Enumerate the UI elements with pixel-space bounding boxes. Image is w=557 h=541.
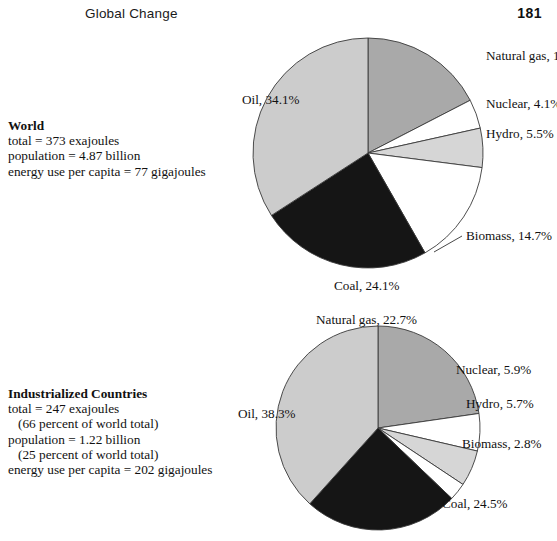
caption-line: population = 4.87 billion [8, 148, 206, 163]
pie-slice-natural-gas [378, 326, 479, 428]
caption-line: (66 percent of world total) [8, 416, 212, 431]
pie-label-natural-gas: Natural gas, 17.4% [486, 48, 557, 63]
caption-industrialized-lines: total = 247 exajoules(66 percent of worl… [8, 401, 212, 477]
caption-world-lines: total = 373 exajoulespopulation = 4.87 b… [8, 133, 206, 179]
page-number: 181 [517, 5, 542, 21]
caption-industrialized: Industrialized Countries total = 247 exa… [8, 386, 212, 477]
pie-label-oil: Oil, 38.3% [238, 406, 296, 421]
pie-chart-world-svg: Natural gas, 17.4%Nuclear, 4.1%Hydro, 5.… [238, 28, 557, 296]
caption-line: total = 247 exajoules [8, 401, 212, 416]
caption-line: (25 percent of world total) [8, 447, 212, 462]
caption-industrialized-title: Industrialized Countries [8, 386, 212, 401]
caption-line: total = 373 exajoules [8, 133, 206, 148]
pie-label-oil: Oil, 34.1% [242, 92, 300, 107]
caption-world: World total = 373 exajoulespopulation = … [8, 118, 206, 179]
caption-line: energy use per capita = 202 gigajoules [8, 462, 212, 477]
pie-chart-world: Natural gas, 17.4%Nuclear, 4.1%Hydro, 5.… [238, 28, 557, 296]
pie-label-nuclear: Nuclear, 5.9% [456, 362, 531, 377]
caption-line: population = 1.22 billion [8, 432, 212, 447]
pie-label-hydro: Hydro, 5.5% [486, 126, 554, 141]
pie-label-natural-gas: Natural gas, 22.7% [316, 312, 417, 327]
pie-label-biomass: Biomass, 2.8% [462, 436, 542, 451]
running-head: Global Change [85, 6, 178, 21]
caption-line: energy use per capita = 77 gigajoules [8, 164, 206, 179]
pie-label-nuclear: Nuclear, 4.1% [486, 96, 557, 111]
pie-chart-industrialized: Natural gas, 22.7%Nuclear, 5.9%Hydro, 5.… [238, 300, 557, 541]
pie-label-hydro: Hydro, 5.7% [466, 396, 534, 411]
caption-world-title: World [8, 118, 206, 133]
pie-label-coal: Coal, 24.5% [442, 496, 508, 511]
pie-chart-industrialized-svg: Natural gas, 22.7%Nuclear, 5.9%Hydro, 5.… [238, 300, 557, 541]
pie-label-biomass: Biomass, 14.7% [466, 228, 552, 243]
pie-label-coal: Coal, 24.1% [334, 278, 400, 293]
